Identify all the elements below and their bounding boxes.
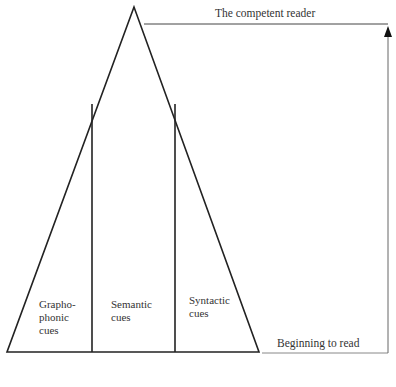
bottom-label: Beginning to read: [277, 337, 359, 350]
up-arrow-icon: [384, 26, 392, 37]
top-label: The competent reader: [215, 7, 315, 20]
graphophonic-label: Grapho- phonic cues: [39, 298, 76, 337]
semantic-label: Semantic cues: [111, 298, 152, 324]
syntactic-label: Syntactic cues: [189, 294, 230, 320]
